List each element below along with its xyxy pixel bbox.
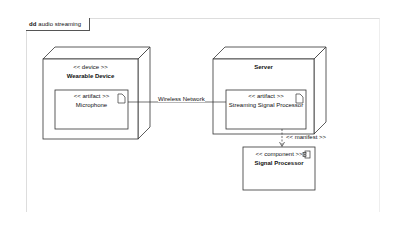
artifact-stereotype: << artifact >> [226, 93, 306, 99]
connection-label: Wireless Network [158, 96, 205, 102]
node-name: Wearable Device [43, 73, 138, 79]
artifact-stereotype: << artifact >> [55, 93, 128, 99]
artifact-name: Microphone [55, 102, 128, 108]
node-name: Server [213, 64, 314, 70]
component-name: Signal Processor [243, 160, 315, 166]
connection-label: << manifest >> [286, 134, 326, 140]
artifact-name: Streaming Signal Processor [226, 102, 306, 108]
node-stereotype: << device >> [43, 64, 138, 70]
component-stereotype: << component >> [243, 151, 315, 157]
